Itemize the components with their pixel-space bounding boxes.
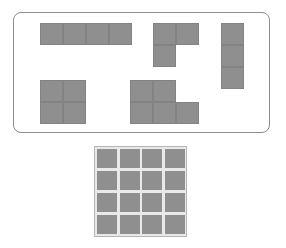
board-cell[interactable] [97,149,117,168]
board-cell[interactable] [165,149,185,168]
piece-cell [176,102,199,124]
piece-cell [221,45,244,67]
board-cell[interactable] [97,215,117,234]
piece-cell [176,23,199,45]
board-cell[interactable] [165,171,185,190]
board-cell[interactable] [120,149,140,168]
piece-cell [40,80,63,102]
board-cell[interactable] [120,215,140,234]
board-cell[interactable] [120,193,140,212]
piece-cell [153,102,176,124]
piece-cell [221,23,244,45]
piece-cell [153,80,176,102]
piece-cell [63,23,86,45]
piece-cell [153,45,176,67]
piece-cell [63,80,86,102]
board-cell[interactable] [142,171,162,190]
board-cell[interactable] [142,149,162,168]
board-cell[interactable] [97,171,117,190]
board-cell[interactable] [142,215,162,234]
board-cell[interactable] [165,215,185,234]
piece-cell [221,67,244,89]
board-cell[interactable] [97,193,117,212]
piece-cell [86,23,109,45]
piece-cell [109,23,132,45]
piece-cell [153,23,176,45]
target-grid-board [94,146,187,237]
board-cell[interactable] [142,193,162,212]
piece-cell [130,102,153,124]
piece-cell [63,102,86,124]
piece-cell [40,23,63,45]
piece-cell [130,80,153,102]
board-cell[interactable] [120,171,140,190]
board-cell[interactable] [165,193,185,212]
piece-cell [40,102,63,124]
